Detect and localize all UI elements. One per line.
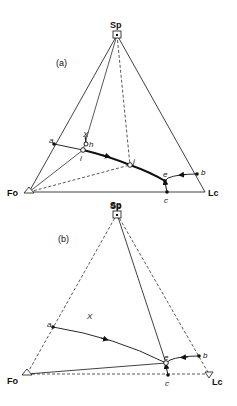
label-a: a <box>49 136 54 145</box>
triangle-marker-fo-b <box>22 369 32 375</box>
line-sp-e-b <box>117 214 166 363</box>
path-a-e-b <box>53 327 166 363</box>
point-h <box>84 142 88 146</box>
panel-label-a: (a) <box>56 58 67 68</box>
phase-diagrams: (a) Sp Fo Lc Sp a X h i j e b c <box>0 0 237 406</box>
label-c-b: c <box>165 379 169 388</box>
edge-sp-lc <box>117 35 205 192</box>
square-dot <box>116 34 118 36</box>
edge-sp-fo <box>29 35 117 192</box>
point-b <box>195 172 199 176</box>
point-b-b <box>197 354 201 358</box>
label-b-b: b <box>203 351 208 360</box>
line-fo-e-b <box>27 363 166 374</box>
arrow-b-e <box>181 175 186 176</box>
vertex-label-sp: Sp <box>110 20 122 30</box>
label-a-b: a <box>47 320 52 329</box>
line-fo-j <box>29 165 130 192</box>
label-i: i <box>80 154 82 163</box>
vertex-label-sp-b: Sp <box>110 200 122 210</box>
point-c-b <box>166 373 170 377</box>
label-c: c <box>164 196 168 205</box>
panel-label-b: (b) <box>58 234 69 244</box>
arrow-b-e-b <box>183 357 188 358</box>
label-e: e <box>163 170 168 179</box>
label-x-b: X <box>86 312 93 321</box>
diagram-b: (b) Sp Fo Lc a X e b c <box>7 200 223 388</box>
square-dot-b <box>116 214 118 216</box>
path-a-i <box>54 144 83 150</box>
line-fo-i <box>29 150 83 192</box>
path-b-e <box>165 174 197 181</box>
vertex-label-fo-b: Fo <box>7 376 18 386</box>
edge-sp-lc-b <box>117 214 209 374</box>
point-j <box>128 163 133 168</box>
vertex-label-lc-b: Lc <box>212 377 223 387</box>
point-e <box>163 179 167 183</box>
point-c <box>165 190 169 194</box>
label-b: b <box>201 168 206 177</box>
path-b-e-b <box>166 356 199 363</box>
point-i <box>81 148 86 153</box>
vertex-label-fo: Fo <box>7 188 18 198</box>
label-e-b: e <box>164 353 169 362</box>
point-a-b <box>51 325 55 329</box>
path-i-j-e <box>83 150 165 181</box>
diagram-a: (a) Sp Fo Lc Sp a X h i j e b c <box>7 20 219 211</box>
triangle-marker-fo <box>24 187 34 193</box>
label-x: X <box>82 130 89 139</box>
label-j: j <box>132 157 135 166</box>
edge-sp-fo-b <box>27 214 117 374</box>
vertex-label-lc: Lc <box>208 188 219 198</box>
label-h: h <box>89 140 94 149</box>
